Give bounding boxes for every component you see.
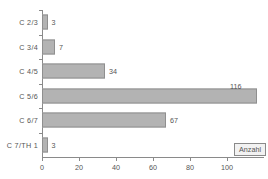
legend-label: Anzahl [239,145,261,154]
y-axis-tick [39,10,43,11]
x-axis-tick [79,157,80,161]
x-axis-tick-label: 20 [75,163,83,172]
bar-row: C 3/4 7 [42,35,264,60]
x-axis-tick [116,157,117,161]
legend[interactable]: Anzahl [234,143,266,156]
y-axis-tick [39,133,43,134]
bar[interactable] [42,15,48,30]
bar-row: C 6/7 67 [42,108,264,133]
x-axis-tick [153,157,154,161]
y-axis-tick [39,84,43,85]
bar[interactable] [42,39,55,54]
y-axis-tick [39,108,43,109]
category-label: C 3/4 [19,42,38,51]
bar[interactable] [42,113,166,128]
x-axis-tick-label: 0 [40,163,44,172]
bar-chart: C 2/3 3 C 3/4 7 C 4/5 34 C 5/6 116 [0,0,268,179]
bar-value-label: 3 [52,140,56,149]
category-label: C 5/6 [19,91,38,100]
plot-area: C 2/3 3 C 3/4 7 C 4/5 34 C 5/6 116 [42,10,264,157]
bar-row: C 4/5 34 [42,59,264,84]
bar-value-label: 116 [230,82,241,91]
x-axis-tick-label: 60 [149,163,157,172]
bar-value-label: 34 [109,67,117,76]
x-axis-tick-label: 100 [221,163,233,172]
bar[interactable] [42,64,105,79]
x-axis-tick-label: 80 [186,163,194,172]
bar-row: C 2/3 3 [42,10,264,35]
bar-value-label: 7 [59,42,63,51]
bar[interactable] [42,88,257,103]
bar-row: C 7/TH 1 3 [42,133,264,158]
x-axis-tick-label: 40 [112,163,120,172]
x-axis-tick [42,157,43,161]
y-axis-tick [39,35,43,36]
y-axis-tick [39,59,43,60]
x-axis-tick [227,157,228,161]
category-label: C 4/5 [19,67,38,76]
x-axis-tick [190,157,191,161]
bar-value-label: 3 [52,18,56,27]
category-label: C 2/3 [19,18,38,27]
bar-value-label: 67 [170,116,178,125]
bar-row: C 5/6 116 [42,84,264,109]
category-label: C 6/7 [19,116,38,125]
bar[interactable] [42,137,48,152]
category-label: C 7/TH 1 [7,140,38,149]
